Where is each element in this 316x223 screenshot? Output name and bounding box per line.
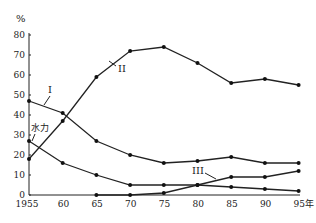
series-line-II (29, 47, 299, 159)
x-tick-label: 1955 (16, 199, 39, 209)
y-tick-label: 20 (14, 150, 26, 160)
series-label-hydro: 水力 (31, 122, 49, 133)
data-point (61, 161, 65, 165)
data-point (297, 169, 301, 173)
y-tick-label: 70 (14, 50, 26, 60)
x-tick-label: 65 (91, 199, 103, 209)
data-point (94, 75, 98, 79)
series-label-I-leader (44, 96, 50, 105)
x-tick-label: 85 (226, 199, 238, 209)
data-point (229, 185, 233, 189)
data-point (263, 161, 267, 165)
axes (29, 33, 300, 195)
data-point (27, 99, 31, 103)
data-point (196, 183, 200, 187)
series-label-hydro-leader (32, 134, 35, 141)
series-line-I (29, 101, 299, 163)
data-point (162, 191, 166, 195)
y-tick-label: 40 (14, 110, 26, 120)
data-point (229, 81, 233, 85)
series-label-II: II (118, 63, 126, 74)
y-tick-label: 80 (14, 30, 26, 40)
x-tick-label: 90 (260, 199, 272, 209)
data-point (229, 175, 233, 179)
series-label-III: III (192, 165, 204, 176)
y-tick-label: 50 (14, 90, 26, 100)
data-point (27, 139, 31, 143)
data-point (263, 187, 267, 191)
data-point (229, 155, 233, 159)
data-point (196, 159, 200, 163)
data-point (297, 189, 301, 193)
series-label-I: I (48, 84, 52, 95)
data-point (61, 119, 65, 123)
data-point (94, 193, 98, 197)
x-tick-label: 95年 (294, 198, 314, 209)
y-tick-labels: 01020304050607080 (14, 30, 31, 200)
y-tick-label: 10 (14, 170, 26, 180)
data-point (263, 175, 267, 179)
x-tick-labels: 19556065707580859095年 (16, 198, 315, 209)
data-point (27, 157, 31, 161)
y-tick-label: 30 (14, 130, 26, 140)
data-point (94, 139, 98, 143)
data-point (94, 173, 98, 177)
data-point (297, 83, 301, 87)
x-tick-label: 60 (58, 199, 70, 209)
line-chart: 01020304050607080 19556065707580859095年 … (0, 0, 316, 223)
data-point (263, 77, 267, 81)
y-tick-label: 60 (14, 70, 26, 80)
data-point (61, 111, 65, 115)
data-point (162, 183, 166, 187)
data-point (128, 183, 132, 187)
x-tick-label: 75 (159, 199, 171, 209)
data-point (128, 193, 132, 197)
data-point (196, 61, 200, 65)
x-tick-label: 70 (125, 199, 137, 209)
series-label-III-leader (205, 173, 216, 179)
y-unit-label: % (16, 13, 26, 24)
data-point (162, 45, 166, 49)
data-point (128, 153, 132, 157)
data-point (128, 49, 132, 53)
data-point (297, 161, 301, 165)
data-point (162, 161, 166, 165)
series-lines (27, 45, 301, 197)
x-tick-label: 80 (193, 199, 205, 209)
